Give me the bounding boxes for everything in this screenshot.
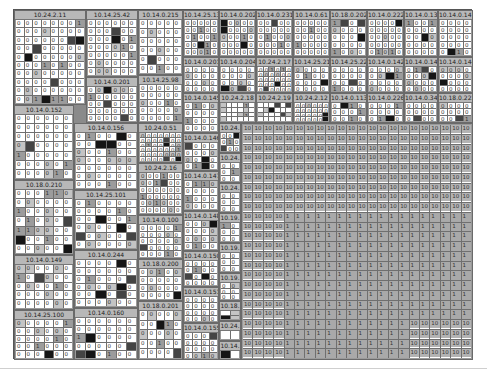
port-cell[interactable]: [269, 103, 274, 107]
port-cell[interactable]: 0: [45, 227, 54, 235]
port-cell[interactable]: 0: [193, 67, 200, 72]
count-cell-one[interactable]: 1: [305, 213, 314, 222]
port-cell[interactable]: 0: [54, 351, 63, 358]
port-cell[interactable]: 0: [64, 236, 73, 244]
port-cell[interactable]: 0: [68, 87, 76, 94]
count-cell-ten[interactable]: 10: [295, 164, 304, 173]
port-cell[interactable]: 0: [429, 86, 436, 91]
port-cell[interactable]: [264, 117, 269, 121]
count-cell-ten[interactable]: 10: [326, 125, 335, 134]
port-cell[interactable]: [164, 157, 169, 161]
port-cell[interactable]: 0: [86, 291, 95, 298]
port-cell[interactable]: 0: [117, 343, 126, 350]
count-cell-ten[interactable]: 10: [264, 164, 273, 173]
port-cell[interactable]: 0: [26, 115, 35, 123]
port-cell[interactable]: 0: [152, 147, 157, 151]
port-cell[interactable]: 0: [341, 67, 349, 72]
port-cell[interactable]: 0: [148, 340, 155, 349]
port-cell[interactable]: 0: [107, 334, 116, 341]
count-cell-one[interactable]: 1: [285, 223, 294, 232]
host-node[interactable]: 10.14.0.2010000000000000000: [183, 57, 219, 93]
count-cell-ten[interactable]: 10: [399, 154, 408, 163]
count-cell-ten[interactable]: 10: [378, 135, 387, 144]
port-cell[interactable]: 0: [456, 27, 463, 33]
port-cell[interactable]: 0: [16, 320, 25, 327]
port-cell[interactable]: 0: [185, 188, 192, 194]
port-cell[interactable]: 0: [165, 92, 172, 98]
port-cell[interactable]: 1: [157, 269, 164, 276]
port-cell[interactable]: 0: [406, 109, 413, 114]
count-cell-ten[interactable]: 10: [358, 125, 367, 134]
port-cell[interactable]: 0: [112, 44, 119, 51]
count-cell-ten[interactable]: 10: [274, 301, 283, 310]
port-cell[interactable]: [232, 113, 237, 117]
count-cell-one[interactable]: 1: [368, 340, 377, 349]
count-cell-one[interactable]: 1: [316, 340, 325, 349]
port-cell[interactable]: 0: [16, 70, 24, 77]
count-cell-one[interactable]: 1: [368, 213, 377, 222]
port-cell[interactable]: [221, 351, 230, 358]
port-cell[interactable]: 1: [157, 65, 164, 73]
count-cell-one[interactable]: 1: [295, 349, 304, 358]
port-cell[interactable]: 0: [295, 34, 301, 40]
port-cell[interactable]: 0: [210, 261, 217, 266]
port-cell[interactable]: [258, 108, 263, 112]
count-cell-ten[interactable]: 10: [264, 135, 273, 144]
port-cell[interactable]: 0: [35, 320, 44, 327]
port-cell[interactable]: 0: [295, 20, 301, 26]
count-cell-one[interactable]: 1: [451, 213, 460, 222]
port-cell[interactable]: 1: [16, 227, 25, 235]
port-cell[interactable]: 0: [464, 34, 471, 40]
port-cell[interactable]: 0: [231, 223, 240, 228]
port-cell[interactable]: 0: [147, 207, 153, 213]
port-cell[interactable]: [16, 236, 25, 244]
port-cell[interactable]: [238, 86, 246, 91]
port-cell[interactable]: 0: [202, 203, 209, 209]
port-cell[interactable]: 0: [59, 45, 67, 52]
port-cell[interactable]: 0: [88, 108, 95, 114]
port-cell[interactable]: 0: [231, 266, 240, 271]
port-cell[interactable]: 0: [86, 284, 95, 291]
port-cell[interactable]: 0: [96, 44, 103, 51]
count-cell-ten[interactable]: 10: [274, 184, 283, 193]
port-cell[interactable]: 0: [26, 161, 35, 169]
port-cell[interactable]: 0: [16, 328, 25, 335]
port-cell[interactable]: 0: [448, 86, 455, 91]
port-cell[interactable]: [117, 260, 126, 267]
port-cell[interactable]: 0: [165, 107, 172, 113]
port-cell[interactable]: 0: [161, 194, 167, 200]
port-cell[interactable]: 0: [107, 284, 116, 291]
count-cell-ten[interactable]: 10: [253, 164, 262, 173]
port-cell[interactable]: 0: [265, 42, 271, 48]
port-cell[interactable]: 0: [45, 142, 54, 150]
port-cell[interactable]: 0: [456, 34, 463, 40]
port-cell[interactable]: 0: [185, 125, 192, 131]
port-cell[interactable]: 0: [96, 60, 103, 67]
port-cell[interactable]: 0: [185, 297, 192, 302]
port-cell[interactable]: 0: [211, 20, 217, 26]
port-cell[interactable]: 0: [396, 34, 402, 40]
count-cell-ten[interactable]: 10: [337, 193, 346, 202]
port-cell[interactable]: 0: [386, 86, 394, 91]
port-cell[interactable]: 0: [414, 73, 421, 78]
port-cell[interactable]: 0: [349, 42, 357, 48]
port-cell[interactable]: 0: [302, 34, 308, 40]
count-cell-one[interactable]: 1: [368, 271, 377, 280]
port-cell[interactable]: 1: [121, 44, 128, 51]
count-cell-ten[interactable]: 10: [399, 135, 408, 144]
port-cell[interactable]: 0: [312, 86, 320, 91]
port-cell[interactable]: 0: [121, 94, 128, 100]
port-cell[interactable]: 1: [205, 49, 211, 55]
port-cell[interactable]: 0: [193, 346, 200, 352]
count-cell-ten[interactable]: 10: [389, 135, 398, 144]
port-cell[interactable]: 0: [210, 203, 217, 209]
port-cell[interactable]: [202, 163, 209, 169]
port-cell[interactable]: 0: [265, 20, 271, 26]
port-cell[interactable]: 0: [96, 52, 103, 59]
count-cell-ten[interactable]: 10: [337, 184, 346, 193]
port-cell[interactable]: 0: [107, 157, 116, 164]
count-cell-ten[interactable]: 10: [264, 125, 273, 134]
count-cell-ten[interactable]: 10: [264, 145, 273, 154]
port-cell[interactable]: [286, 113, 291, 117]
port-cell[interactable]: 0: [221, 206, 230, 211]
